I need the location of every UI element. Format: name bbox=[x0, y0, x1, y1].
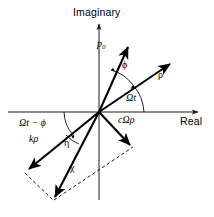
vector-label-p0-subscript: 0 bbox=[102, 43, 106, 51]
angle-label-omega-t: Ωt bbox=[126, 93, 136, 103]
angle-arc-group bbox=[64, 70, 144, 144]
imaginary-axis-label: Imaginary bbox=[73, 7, 120, 18]
angle-label-eta: η bbox=[64, 138, 69, 148]
vector-chi bbox=[55, 112, 99, 197]
vector-label-c-omega-rho: cΩρ bbox=[118, 115, 134, 125]
angle-label-omega-t-minus-phi: Ωt − ϕ bbox=[19, 118, 46, 128]
arc-omega-t-minus-phi-arrowhead bbox=[71, 135, 75, 139]
dashed-construction-group bbox=[25, 147, 133, 200]
dashed-krho-to-chi bbox=[25, 173, 53, 200]
dashed-chi-to-comegarho bbox=[54, 147, 133, 200]
vector-label-k-rho: kρ bbox=[29, 134, 38, 144]
c-omega-rho-text: cΩρ bbox=[118, 114, 134, 125]
angle-label-phi: ϕ bbox=[122, 60, 127, 70]
real-axis-label: Real bbox=[180, 116, 202, 127]
vector-label-p0: p0 bbox=[97, 39, 106, 49]
vector-label-chi: χ bbox=[70, 163, 74, 173]
vector-label-rho: ρ bbox=[158, 70, 163, 80]
diagram-canvas bbox=[0, 0, 214, 217]
phasor-diagram-figure: Imaginary Real p0 ρ cΩρ kρ χ ϕ Ωt Ωt − ϕ… bbox=[0, 0, 214, 217]
